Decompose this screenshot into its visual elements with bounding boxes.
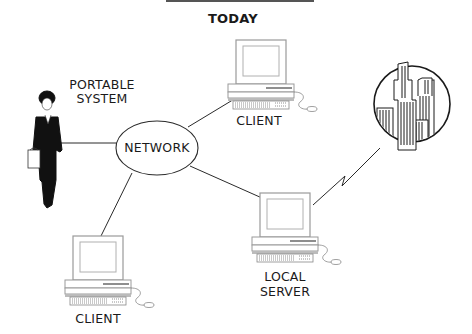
network-label: NETWORK	[117, 141, 197, 155]
network-diagram	[0, 0, 472, 334]
client-bottom-label: CLIENT	[68, 312, 128, 326]
client-top-computer-icon	[228, 40, 317, 112]
portable-system-label-line2: SYSTEM	[62, 92, 142, 106]
local-server-label-line1: LOCAL	[255, 270, 315, 284]
lightning-link-server-city	[313, 148, 380, 205]
city-skyline-icon	[374, 62, 450, 150]
link-network-client-bottom	[100, 173, 132, 238]
connection-lines	[60, 98, 380, 238]
local-server-label-line2: SERVER	[255, 285, 315, 299]
client-top-label: CLIENT	[229, 114, 289, 128]
client-bottom-computer-icon	[65, 236, 154, 308]
link-network-server	[190, 166, 262, 198]
local-server-computer-icon	[252, 193, 341, 265]
businesswoman-icon	[28, 91, 62, 208]
portable-system-label-line1: PORTABLE	[62, 78, 142, 92]
diagram-title: TODAY	[208, 12, 254, 26]
